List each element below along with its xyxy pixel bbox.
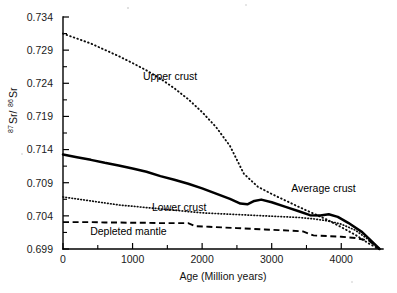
strontium-isotope-evolution-chart: 0.6990.7040.7090.7140.7190.7240.7290.734… bbox=[0, 0, 397, 293]
x-tick-label: 2000 bbox=[190, 253, 214, 265]
series-label-average-crust: Average crust bbox=[291, 182, 356, 194]
y-axis-title-sr-tail: Sr bbox=[7, 87, 19, 98]
y-tick-label: 0.709 bbox=[27, 177, 53, 189]
x-tick-label: 3000 bbox=[260, 253, 284, 265]
x-tick-label: 1000 bbox=[121, 253, 145, 265]
y-tick-label: 0.724 bbox=[27, 77, 53, 89]
series-label-lower-crust: Lower crust bbox=[152, 201, 206, 213]
y-tick-label: 0.734 bbox=[27, 11, 53, 23]
y-axis-title-sr-over: Sr/ bbox=[7, 111, 19, 125]
series-label-upper-crust: Upper crust bbox=[143, 70, 197, 82]
y-tick-label: 0.729 bbox=[27, 44, 53, 56]
y-tick-label: 0.699 bbox=[27, 243, 53, 255]
y-tick-label: 0.719 bbox=[27, 110, 53, 122]
x-axis-title: Age (Million years) bbox=[180, 270, 267, 282]
y-axis-title-superscript-87: 87 bbox=[7, 125, 14, 133]
x-tick-label: 4000 bbox=[330, 253, 354, 265]
series-label-depleted-mantle: Depleted mantle bbox=[90, 225, 167, 237]
y-tick-label: 0.714 bbox=[27, 143, 53, 155]
y-tick-label: 0.704 bbox=[27, 210, 53, 222]
y-axis-title-superscript-86: 86 bbox=[7, 99, 14, 107]
x-tick-label: 0 bbox=[60, 253, 66, 265]
